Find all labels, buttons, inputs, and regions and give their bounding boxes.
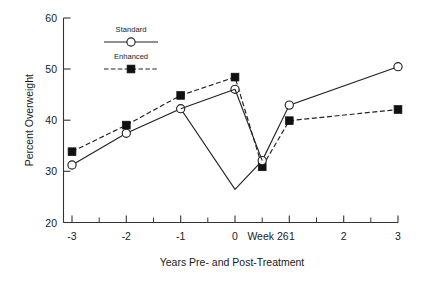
- x-tick-label: -3: [67, 230, 76, 242]
- legend-swatch-standard-marker: [127, 38, 135, 46]
- standard-line-segment: [235, 89, 262, 160]
- y-tick-label: 20: [45, 217, 57, 229]
- y-tick-label: 40: [45, 114, 57, 126]
- x-tick-label: 0: [232, 230, 238, 242]
- enhanced-marker: [231, 73, 239, 81]
- enhanced-marker: [394, 106, 402, 114]
- x-tick-label: -1: [176, 230, 185, 242]
- x-axis-ticks: [72, 216, 398, 223]
- x-tick-label-week26: Week 26: [247, 230, 288, 242]
- enhanced-marker: [285, 117, 293, 125]
- standard-marker: [394, 63, 402, 71]
- x-tick-labels: -3 -2 -1 0 Week 26 1 2 3: [67, 230, 401, 242]
- x-tick-label: 3: [395, 230, 401, 242]
- legend-label-standard: Standard: [116, 25, 147, 34]
- enhanced-marker: [177, 92, 185, 100]
- y-tick-labels: 60 50 40 30 20: [45, 12, 57, 229]
- y-tick-label: 30: [45, 165, 57, 177]
- y-axis-ticks: [64, 18, 71, 223]
- legend-label-enhanced: Enhanced: [114, 52, 148, 61]
- x-tick-label: 2: [341, 230, 347, 242]
- y-tick-label: 60: [45, 12, 57, 24]
- standard-marker: [68, 161, 76, 169]
- legend-swatch-enhanced-marker: [127, 65, 135, 73]
- y-axis-title: Percent Overweight: [23, 74, 35, 166]
- standard-marker: [285, 101, 293, 109]
- chart-plot-area: 60 50 40 30 20 -3 -2 -1 0 Week 26 1 2 3 …: [0, 0, 421, 291]
- x-tick-label: -2: [122, 230, 131, 242]
- series-standard: [68, 63, 402, 190]
- x-tick-label: 1: [289, 230, 295, 242]
- chart-legend: Standard Enhanced: [104, 25, 158, 73]
- standard-marker: [122, 129, 130, 137]
- enhanced-marker: [68, 148, 76, 156]
- enhanced-marker: [122, 121, 130, 129]
- chart-figure: 60 50 40 30 20 -3 -2 -1 0 Week 26 1 2 3 …: [0, 0, 421, 291]
- y-tick-label: 50: [45, 63, 57, 75]
- x-axis-title: Years Pre- and Post-Treatment: [160, 256, 305, 268]
- standard-marker: [177, 105, 185, 113]
